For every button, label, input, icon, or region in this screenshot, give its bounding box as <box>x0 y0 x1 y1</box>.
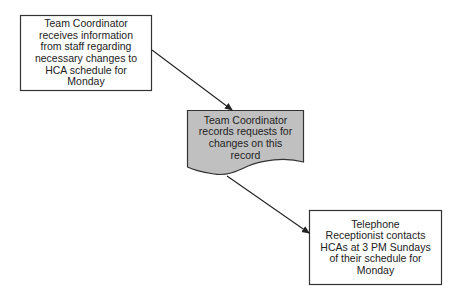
process-box-receive-info-label: Team Coordinator receives information fr… <box>20 15 152 91</box>
flowchart: Team Coordinator receives information fr… <box>0 0 455 298</box>
connector-arrow-1 <box>152 50 232 110</box>
process-box-telephone-contact-label: Telephone Receptionist contacts HCAs at … <box>309 210 442 285</box>
connector-arrow-2 <box>227 176 309 233</box>
document-shape-record-label: Team Coordinator records requests for ch… <box>187 110 304 166</box>
